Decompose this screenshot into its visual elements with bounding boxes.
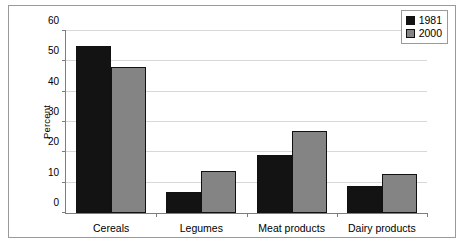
bar-1981 <box>76 46 111 213</box>
y-axis-tick-label: 60 <box>48 16 59 26</box>
legend-item: 1981 <box>406 14 442 27</box>
y-axis-tick-label: 30 <box>48 107 59 117</box>
bar-2000 <box>201 171 236 213</box>
x-axis-tick <box>247 213 248 217</box>
x-axis-category-label: Legumes <box>156 222 246 234</box>
legend-label-1981: 1981 <box>419 15 442 26</box>
chart-figure: Percent 0102030405060 CerealsLegumesMeat… <box>8 5 456 238</box>
bar-pair <box>156 31 246 213</box>
x-axis-tick <box>337 213 338 217</box>
y-axis-tick-label: 40 <box>48 77 59 87</box>
chart-legend: 1981 2000 <box>401 10 448 44</box>
bar-group: Cereals <box>66 31 156 213</box>
bar-pair <box>66 31 156 213</box>
bar-2000 <box>382 174 417 213</box>
legend-swatch-2000 <box>406 29 415 38</box>
y-axis-tick-label: 50 <box>48 46 59 56</box>
y-axis-tick-label: 20 <box>48 137 59 147</box>
bar-1981 <box>257 155 292 213</box>
plot-area: 0102030405060 CerealsLegumesMeat product… <box>65 31 427 214</box>
bar-group: Dairy products <box>337 31 427 213</box>
x-axis-category-label: Meat products <box>247 222 337 234</box>
bar-pair <box>247 31 337 213</box>
x-axis-category-label: Dairy products <box>337 222 427 234</box>
y-axis-tick-label: 0 <box>53 198 59 208</box>
bar-1981 <box>347 186 382 213</box>
legend-item: 2000 <box>406 27 442 40</box>
bar-group: Meat products <box>247 31 337 213</box>
legend-swatch-1981 <box>406 16 415 25</box>
bar-1981 <box>166 192 201 213</box>
x-axis-tick <box>156 213 157 217</box>
x-axis-tick <box>427 213 428 217</box>
y-axis-tick-label: 10 <box>48 168 59 178</box>
legend-label-2000: 2000 <box>419 28 442 39</box>
bar-group: Legumes <box>156 31 246 213</box>
bar-2000 <box>292 131 327 213</box>
bar-2000 <box>111 67 146 213</box>
x-axis-category-label: Cereals <box>66 222 156 234</box>
bar-pair <box>337 31 427 213</box>
bar-groups: CerealsLegumesMeat productsDairy product… <box>66 31 427 213</box>
